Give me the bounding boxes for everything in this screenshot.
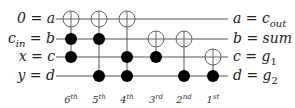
gate-order-label: 4th — [120, 93, 134, 105]
control-dot — [178, 70, 190, 82]
control-dot — [150, 51, 162, 63]
wire-label-left-c: x = c — [19, 49, 55, 63]
control-dot — [121, 51, 133, 63]
control-dot — [207, 70, 219, 82]
gate-4th — [119, 11, 135, 82]
wire-label-right-b: b = sum — [233, 31, 292, 45]
control-dot — [121, 70, 133, 82]
gate-1st — [205, 49, 221, 82]
wire-label-left-b: cin = b — [8, 31, 55, 49]
control-dot — [93, 70, 105, 82]
gate-order-label: 2nd — [176, 93, 191, 105]
gate-6th — [63, 11, 79, 63]
wire-label-right-a: a = cout — [233, 11, 286, 29]
gate-3rd — [148, 31, 164, 63]
wire-label-right-c: c = g1 — [233, 49, 277, 67]
wire-label-left-a: 0 = a — [17, 11, 55, 25]
control-dot — [65, 51, 77, 63]
control-dot — [65, 33, 77, 45]
wire-label-right-d: d = g2 — [233, 68, 278, 86]
gate-5th — [91, 11, 107, 82]
gate-order-label: 5th — [92, 93, 106, 105]
gate-order-label: 6th — [64, 93, 78, 105]
wire-label-left-d: y = d — [17, 68, 55, 82]
gate-order-label: 3rd — [149, 93, 163, 105]
gate-order-label: 1st — [207, 93, 220, 105]
control-dot — [93, 33, 105, 45]
